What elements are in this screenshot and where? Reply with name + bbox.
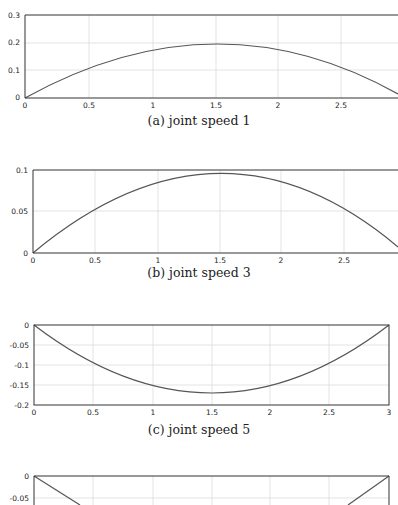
xtick: 0.5 — [87, 408, 99, 417]
plot-a: 0.3 0.2 0.1 0 0 0.5 1 1.5 2 2.5 — [0, 0, 398, 110]
xtick: 1 — [151, 101, 156, 110]
caption-c: (c) joint speed 5 — [0, 422, 398, 437]
ytick: -0.15 — [10, 381, 30, 390]
xtick: 2.5 — [338, 256, 350, 265]
caption-b: (b) joint speed 3 — [0, 265, 398, 280]
xtick: 2.5 — [335, 101, 347, 110]
ytick: 0.2 — [8, 38, 20, 47]
ytick: -0.05 — [10, 494, 30, 503]
grid-lines — [25, 15, 398, 98]
ytick: 0 — [24, 321, 29, 330]
xtick: 2 — [276, 101, 281, 110]
ytick: -0.05 — [10, 341, 30, 350]
ytick: 0.05 — [11, 207, 28, 216]
plot-a-svg: 0.3 0.2 0.1 0 0 0.5 1 1.5 2 2.5 — [0, 0, 398, 110]
ytick: 0 — [15, 93, 20, 102]
plot-c-svg: 0 -0.05 -0.1 -0.15 -0.2 0 0.5 1 1.5 2 2.… — [0, 315, 398, 425]
plot-b: 0.1 0.05 0 0 0.5 1 1.5 2 2.5 — [0, 160, 398, 270]
xtick: 1 — [156, 256, 161, 265]
ytick: -0.1 — [14, 361, 29, 370]
ytick: 0.1 — [8, 66, 20, 75]
xtick: 1.5 — [210, 101, 222, 110]
data-line — [34, 325, 389, 393]
xtick: 1.5 — [206, 408, 218, 417]
xtick: 2 — [268, 408, 273, 417]
data-line — [25, 44, 398, 98]
data-line — [34, 476, 80, 505]
grid-lines — [33, 170, 398, 253]
xtick: 2 — [279, 256, 284, 265]
xtick: 0.5 — [89, 256, 101, 265]
caption-a: (a) joint speed 1 — [0, 113, 398, 128]
xtick: 0 — [23, 101, 28, 110]
data-line — [33, 173, 398, 253]
xtick: 3 — [387, 408, 392, 417]
plot-b-svg: 0.1 0.05 0 0 0.5 1 1.5 2 2.5 — [0, 160, 398, 270]
ytick: 0.3 — [8, 11, 20, 20]
plot-c: 0 -0.05 -0.1 -0.15 -0.2 0 0.5 1 1.5 2 2.… — [0, 315, 398, 425]
plot-d: 0 -0.05 — [0, 466, 398, 505]
xtick: 1 — [151, 408, 156, 417]
axes-box — [33, 170, 398, 253]
xtick: 0 — [31, 256, 36, 265]
ytick: -0.2 — [14, 401, 29, 410]
ytick: 0.1 — [16, 166, 28, 175]
xtick: 0 — [32, 408, 37, 417]
ytick: 0 — [24, 472, 29, 481]
data-line — [348, 476, 389, 505]
grid-lines — [34, 476, 389, 505]
axes-box — [34, 476, 389, 505]
xtick: 1.5 — [214, 256, 226, 265]
plot-d-svg: 0 -0.05 — [0, 466, 398, 505]
xtick: 2.5 — [323, 408, 335, 417]
axes-box — [25, 15, 398, 98]
ytick: 0 — [23, 249, 28, 258]
xtick: 0.5 — [83, 101, 95, 110]
